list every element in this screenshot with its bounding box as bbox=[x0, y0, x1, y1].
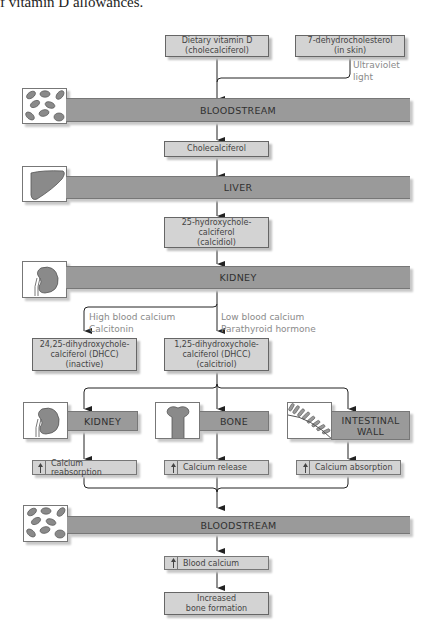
low-line1: Low blood calcium bbox=[221, 311, 316, 323]
blood-cells-icon-bottom bbox=[23, 505, 68, 542]
calcium-absorption-label: Calcium absorption bbox=[315, 463, 392, 472]
uv-line1: Ultraviolet bbox=[353, 59, 400, 71]
intestinal-line1: INTESTINAL bbox=[341, 415, 399, 426]
kidney-target-icon bbox=[23, 402, 68, 439]
calcidiol-box: 25-hydroxychole- calciferol (calcidiol) bbox=[164, 217, 269, 248]
blood-calcium-box: Blood calcium bbox=[164, 556, 269, 570]
bone-formation-line1: Increased bbox=[197, 594, 236, 604]
calcium-release-label: Calcium release bbox=[183, 463, 247, 472]
bone-formation-line2: bone formation bbox=[186, 604, 247, 614]
intestinal-line2: WALL bbox=[357, 426, 384, 437]
calcitriol-line1: 1,25-dihydroxychole- bbox=[174, 340, 259, 350]
increase-arrow-icon bbox=[37, 461, 46, 474]
bloodstream-bar-top: BLOODSTREAM bbox=[66, 98, 410, 122]
intestinal-villi-icon bbox=[287, 402, 332, 439]
inactive-line3: (inactive) bbox=[66, 360, 104, 370]
low-line2: Parathyroid hormone bbox=[221, 323, 316, 335]
dietary-line1: Dietary vitamin D bbox=[182, 36, 253, 46]
calcitriol-line3: (calcitriol) bbox=[196, 360, 236, 370]
uv-line2: light bbox=[353, 71, 400, 83]
blood-cells-icon bbox=[22, 88, 67, 124]
inactive-line1: 24,25-dihydroxychole- bbox=[40, 340, 130, 350]
skin-line2: (in skin) bbox=[334, 46, 366, 56]
inactive-line2: calciferol (DHCC) bbox=[50, 350, 118, 360]
bloodstream-bar-bottom: BLOODSTREAM bbox=[67, 516, 410, 534]
calcium-reabsorption-box: Calcium reabsorption bbox=[32, 460, 137, 475]
increase-arrow-icon bbox=[169, 461, 178, 474]
high-line1: High blood calcium bbox=[89, 311, 175, 323]
kidney-target-bar: KIDNEY bbox=[67, 411, 138, 431]
high-line2: Calcitonin bbox=[89, 323, 175, 335]
high-calcium-label: High blood calcium Calcitonin bbox=[89, 311, 175, 335]
blood-calcium-label: Blood calcium bbox=[183, 559, 239, 568]
calcitriol-line2: calciferol (DHCC) bbox=[182, 350, 250, 360]
intestinal-wall-bar: INTESTINAL WALL bbox=[331, 411, 410, 440]
kidney-bar: KIDNEY bbox=[66, 266, 410, 289]
bone-icon bbox=[155, 402, 200, 439]
dietary-line2: (cholecalciferol) bbox=[185, 46, 249, 56]
bone-bar: BONE bbox=[199, 411, 269, 431]
liver-bar: LIVER bbox=[66, 176, 410, 199]
calcium-absorption-box: Calcium absorption bbox=[296, 460, 401, 475]
calcitriol-box: 1,25-dihydroxychole- calciferol (DHCC) (… bbox=[164, 338, 269, 371]
dietary-vitamin-d-box: Dietary vitamin D (cholecalciferol) bbox=[165, 35, 269, 57]
inactive-dhcc-box: 24,25-dihydroxychole- calciferol (DHCC) … bbox=[32, 338, 137, 371]
cholecalciferol-box: Cholecalciferol bbox=[164, 141, 269, 157]
increase-arrow-icon bbox=[301, 461, 310, 474]
low-calcium-label: Low blood calcium Parathyroid hormone bbox=[221, 311, 316, 335]
skin-line1: 7-dehydrocholesterol bbox=[308, 36, 393, 46]
liver-icon bbox=[22, 166, 67, 202]
calcidiol-line3: (calcidiol) bbox=[197, 238, 236, 248]
calcidiol-line2: calciferol bbox=[198, 228, 234, 238]
dehydrocholesterol-box: 7-dehydrocholesterol (in skin) bbox=[295, 35, 405, 57]
increase-arrow-icon bbox=[169, 557, 178, 569]
bone-formation-box: Increased bone formation bbox=[164, 592, 269, 615]
calcidiol-line1: 25-hydroxychole- bbox=[182, 218, 252, 228]
calcium-reabsorption-label: Calcium reabsorption bbox=[51, 459, 136, 477]
kidney-icon bbox=[22, 261, 67, 298]
uv-light-label: Ultraviolet light bbox=[353, 59, 400, 83]
calcium-release-box: Calcium release bbox=[164, 460, 269, 475]
